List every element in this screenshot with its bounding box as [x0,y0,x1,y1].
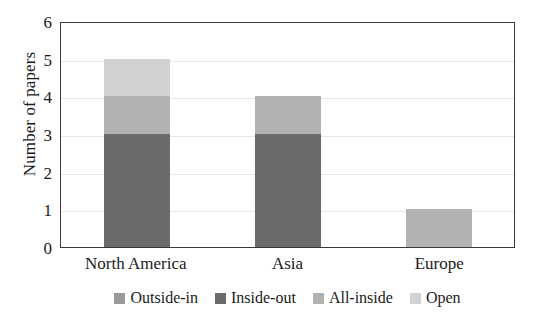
bar-segment[interactable] [104,134,170,247]
x-axis-tick-labels: North AmericaAsiaEurope [60,254,515,274]
bar-slot [212,23,363,247]
legend-swatch-icon [410,293,421,304]
legend-label: Open [426,290,461,306]
y-axis-tick-label: 1 [0,202,52,219]
y-axis-tick-label: 4 [0,89,52,106]
bar-segment[interactable] [255,134,321,247]
bars-layer [61,23,514,247]
y-axis-tick-label: 2 [0,164,52,181]
bar-slot [61,23,212,247]
legend-swatch-icon [114,293,125,304]
x-axis-tick-label: North America [60,254,212,274]
y-axis-tick-label: 5 [0,51,52,68]
x-axis-tick-label: Europe [363,254,515,274]
legend-swatch-icon [215,293,226,304]
bar-segment[interactable] [104,59,170,97]
legend-item[interactable]: All-inside [313,290,393,306]
chart-legend: Outside-inInside-outAll-insideOpen [60,290,515,306]
y-axis-tick-labels: 0123456 [0,0,52,332]
legend-item[interactable]: Inside-out [215,290,296,306]
legend-item[interactable]: Open [410,290,461,306]
bar-stack[interactable] [406,209,472,247]
stacked-bar-chart: Number of papers 0123456 North AmericaAs… [0,0,533,332]
legend-swatch-icon [313,293,324,304]
legend-label: Outside-in [130,290,198,306]
x-axis-tick-label: Asia [212,254,364,274]
plot-area [60,22,515,248]
bar-segment[interactable] [255,96,321,134]
y-axis-tick-label: 6 [0,14,52,31]
legend-item[interactable]: Outside-in [114,290,198,306]
bar-segment[interactable] [104,96,170,134]
bar-stack[interactable] [255,96,321,247]
bar-slot [363,23,514,247]
bar-segment[interactable] [406,209,472,247]
y-axis-tick-label: 0 [0,240,52,257]
y-axis-tick-label: 3 [0,127,52,144]
bar-stack[interactable] [104,59,170,247]
legend-label: All-inside [329,290,393,306]
legend-label: Inside-out [231,290,296,306]
